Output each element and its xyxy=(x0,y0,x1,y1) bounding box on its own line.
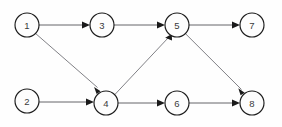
edge-5-to-7[interactable] xyxy=(189,22,240,29)
node-5[interactable]: 5 xyxy=(165,13,189,37)
node-4-label: 4 xyxy=(103,98,108,109)
edge-1-to-4[interactable] xyxy=(36,34,101,95)
node-7[interactable]: 7 xyxy=(240,13,264,37)
arrow-head-icon-3-5 xyxy=(157,22,165,29)
node-2[interactable]: 2 xyxy=(15,89,39,113)
node-4[interactable]: 4 xyxy=(94,91,118,115)
node-8-label: 8 xyxy=(249,98,254,109)
edge-6-to-8[interactable] xyxy=(189,100,240,107)
edge-3-to-5[interactable] xyxy=(114,22,165,29)
arrow-head-icon-2-4 xyxy=(86,99,94,106)
graph-canvas: 1 2 3 4 5 6 xyxy=(0,0,282,127)
arrow-head-icon-1-3 xyxy=(82,22,90,29)
arrow-head-icon-6-8 xyxy=(232,100,240,107)
edge-line-5-8 xyxy=(186,34,242,90)
graph-diagram: 1 2 3 4 5 6 xyxy=(0,0,282,127)
node-1[interactable]: 1 xyxy=(15,13,39,37)
node-3-label: 3 xyxy=(99,20,104,31)
node-6[interactable]: 6 xyxy=(165,91,189,115)
edge-line-1-4 xyxy=(36,34,98,88)
node-7-label: 7 xyxy=(249,20,254,31)
edge-5-to-8[interactable] xyxy=(186,34,245,95)
arrow-head-icon-4-6 xyxy=(157,100,165,107)
node-3[interactable]: 3 xyxy=(90,13,114,37)
edge-group xyxy=(36,22,245,107)
arrow-head-icon-5-7 xyxy=(232,22,240,29)
edge-4-to-6[interactable] xyxy=(118,100,165,107)
edge-2-to-4[interactable] xyxy=(39,99,94,106)
edge-line-4-5 xyxy=(115,37,169,95)
node-8[interactable]: 8 xyxy=(240,91,264,115)
node-6-label: 6 xyxy=(174,98,179,109)
node-2-label: 2 xyxy=(24,96,29,107)
node-5-label: 5 xyxy=(174,20,179,31)
edge-4-to-5[interactable] xyxy=(115,34,172,95)
edge-1-to-3[interactable] xyxy=(39,22,90,29)
node-group: 1 2 3 4 5 6 xyxy=(15,13,264,115)
node-1-label: 1 xyxy=(24,20,29,31)
